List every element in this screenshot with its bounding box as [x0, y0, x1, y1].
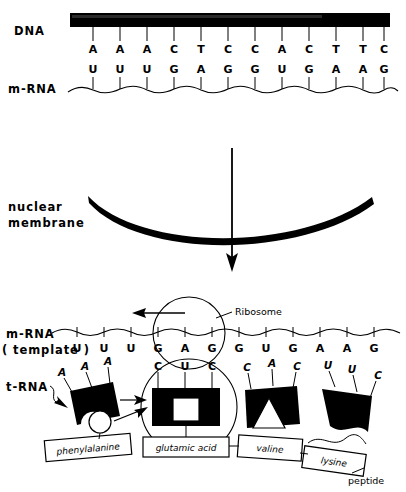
mrna-base: A	[181, 342, 190, 355]
dna-base: C	[251, 43, 259, 56]
downward-transport-arrow	[226, 148, 238, 272]
mrna-label-top: m-RNA	[8, 82, 57, 96]
mrna-base: U	[100, 342, 109, 355]
valine-label-box: valine	[237, 435, 302, 461]
peptide-chain-squiggle	[308, 435, 366, 444]
glutamic-acid-carrier-square	[173, 398, 199, 421]
mrna-base: A	[359, 63, 368, 76]
mrna-base: G	[250, 63, 259, 76]
mrna-base: G	[234, 342, 243, 355]
mrna-base: G	[169, 63, 178, 76]
transcription-panel: DNA A A A C T C C A	[8, 13, 398, 96]
mrna-base: U	[89, 63, 98, 76]
trna-1-to-ribosome-arrow	[120, 395, 147, 405]
trna-4-body	[322, 389, 372, 432]
ribosome-direction-arrow	[132, 308, 185, 318]
mrna-base-row-bottom: U U U G A G G U G A A G	[73, 342, 379, 355]
peptide-label: peptide	[348, 475, 384, 486]
trna-label: t-RNA	[6, 380, 48, 394]
trna-3-anticodon-base: C	[293, 360, 301, 372]
dna-base: T	[197, 43, 205, 56]
dna-base: T	[359, 43, 367, 56]
mrna-base: G	[369, 342, 378, 355]
trna-2-anticodon-stems	[158, 372, 212, 388]
mrna-base: G	[288, 342, 297, 355]
trna-2-anticodon-base: C	[208, 360, 216, 373]
trna-3-anticodon-stems	[248, 369, 296, 389]
nuclear-membrane-curve	[88, 196, 374, 245]
mrna-base: A	[197, 63, 206, 76]
dna-base: A	[89, 43, 98, 56]
lysine-label-box: lysine	[302, 446, 366, 476]
mrna-template-label-line1: m-RNA	[6, 327, 55, 341]
dna-base: C	[224, 43, 232, 56]
mrna-base: G	[379, 63, 388, 76]
dna-base: A	[116, 43, 125, 56]
trna-glutamic-acid: C U C glutamic acid	[143, 360, 229, 457]
dna-base-connectors	[93, 27, 384, 41]
mrna-base: U	[116, 63, 125, 76]
protein-synthesis-figure: DNA A A A C T C C A	[0, 0, 406, 492]
translation-panel: m-RNA ( template ) Ribosome	[2, 297, 400, 486]
mrna-base: G	[304, 63, 313, 76]
trna-3-anticodon-base: A	[267, 357, 276, 369]
dna-base: T	[332, 43, 340, 56]
trna-1-anticodon-base: A	[103, 355, 112, 367]
trna-2-anticodon-base: U	[181, 360, 190, 373]
dna-base: C	[170, 43, 178, 56]
mrna-base: G	[207, 342, 216, 355]
valine-label: valine	[256, 443, 284, 455]
nuclear-membrane-label-line2: membrane	[8, 216, 85, 230]
mrna-base: U	[143, 63, 152, 76]
glutamic-acid-label-box: glutamic acid	[143, 437, 229, 457]
mrna-base: U	[127, 342, 136, 355]
trna-1-anticodon-base: A	[57, 366, 66, 378]
trna-4-anticodon-base: C	[374, 369, 382, 381]
nuclear-membrane-panel: nuclear membrane	[8, 148, 374, 272]
mrna-backbone-top	[68, 86, 398, 93]
dna-label: DNA	[14, 24, 45, 38]
mrna-base: G	[153, 342, 162, 355]
mrna-base: A	[343, 342, 352, 355]
dna-base: C	[380, 43, 388, 56]
trna-3-anticodon-base: C	[243, 361, 251, 373]
mrna-base: A	[316, 342, 325, 355]
trna-phenylalanine: A A A phenylalanine	[44, 355, 148, 462]
nuclear-membrane-label-line1: nuclear	[8, 200, 63, 214]
dna-base: A	[278, 43, 287, 56]
trna-1-anticodon-base: A	[80, 360, 89, 372]
ribosome-label: Ribosome	[235, 306, 282, 317]
mrna-base: A	[332, 63, 341, 76]
ribosome-upper-lobe	[153, 297, 225, 369]
dna-base: A	[143, 43, 152, 56]
ribosome	[141, 297, 237, 455]
trna-callout-squiggle	[50, 386, 56, 402]
glutamic-acid-label: glutamic acid	[156, 443, 217, 453]
trna-callout-arrowhead	[54, 396, 68, 408]
trna-lysine: U U C lysine peptide	[300, 359, 384, 486]
dna-base-row: A A A C T C C A C T T C	[89, 43, 388, 56]
phenylalanine-label-box: phenylalanine	[44, 433, 132, 461]
trna-4-anticodon-base: U	[348, 363, 357, 375]
trna-valine: C A C valine	[229, 357, 303, 461]
mrna-base-row-top: U U U G A G G U G A A G	[89, 63, 389, 76]
mrna-base: U	[278, 63, 287, 76]
dna-base: C	[305, 43, 313, 56]
trna-4-anticodon-base: U	[324, 359, 333, 371]
mrna-base: G	[223, 63, 232, 76]
dna-strand-texture	[72, 15, 322, 18]
phenylalanine-amino-acid-circle	[89, 411, 111, 433]
trna-2-anticodon-base: C	[154, 360, 162, 373]
mrna-base: U	[73, 342, 82, 355]
mrna-base: U	[262, 342, 271, 355]
